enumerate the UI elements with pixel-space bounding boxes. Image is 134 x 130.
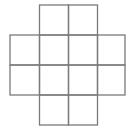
grid-cell	[69, 35, 98, 65]
grid-cell	[40, 65, 69, 95]
grid-cell	[10, 65, 40, 95]
grid-cell	[98, 35, 126, 65]
grid-cell	[98, 65, 126, 95]
grid-cell	[10, 35, 40, 65]
grid-cell	[69, 5, 98, 35]
grid-cell	[40, 95, 69, 125]
grid-cell	[69, 95, 98, 125]
grid-cell	[69, 65, 98, 95]
cross-grid-diagram	[0, 0, 134, 130]
grid-cell	[40, 35, 69, 65]
grid-cell	[40, 5, 69, 35]
